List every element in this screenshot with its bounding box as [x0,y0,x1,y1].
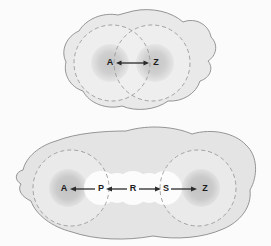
lower-core-a [49,169,87,207]
lower-panel-diagram: A P R S Z [0,123,271,246]
upper-panel-diagram: A Z [0,0,271,123]
upper-label-z: Z [153,57,159,67]
figure-root: A Z [0,0,271,246]
lower-label-s: S [163,183,169,193]
lower-label-z: Z [202,183,208,193]
lower-label-a: A [61,183,68,193]
lower-label-p: P [98,183,104,193]
lower-label-r: R [130,183,137,193]
upper-label-a: A [107,57,114,67]
lower-core-z [182,169,220,207]
